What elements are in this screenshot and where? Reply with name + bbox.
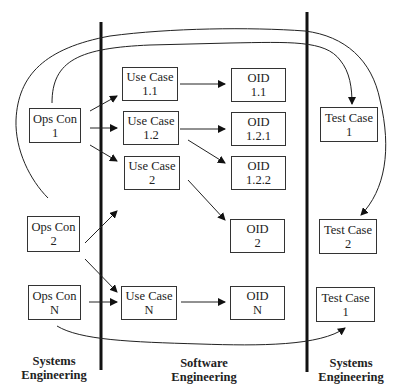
node-id: 1.2.1 (246, 129, 271, 143)
lane-label-software: Software Engineering (154, 356, 254, 384)
arrow-opscon1-uc11 (90, 96, 117, 111)
node-id: 1.1 (142, 84, 158, 98)
node-oid-n[interactable]: OID N (230, 286, 285, 320)
arrow-opscon1-uc2 (90, 145, 117, 161)
node-label: Ops Con (32, 289, 76, 303)
node-id: 2 (50, 234, 56, 248)
node-label: Use Case (128, 114, 175, 128)
diagram-connectors (0, 0, 409, 392)
node-id: 2 (149, 173, 155, 187)
node-test-case-2[interactable]: Test Case 2 (319, 219, 377, 254)
node-label: Use Case (126, 289, 173, 303)
node-use-case-1-2[interactable]: Use Case 1.2 (123, 111, 179, 145)
node-label: Use Case (127, 70, 174, 84)
node-label: Ops Con (31, 220, 75, 234)
node-ops-con-1[interactable]: Ops Con 1 (29, 108, 81, 143)
node-ops-con-2[interactable]: Ops Con 2 (27, 216, 80, 252)
node-id: 2 (345, 237, 351, 251)
lane-label-systems-left: Systems Engineering (4, 354, 104, 382)
lane-label-systems-right: Systems Engineering (301, 356, 401, 384)
node-oid-1-2-1[interactable]: OID 1.2.1 (231, 112, 286, 146)
arrow-uc12-oid122 (188, 140, 225, 163)
arrow-uc2-oid2 (188, 180, 225, 220)
node-oid-1-2-2[interactable]: OID 1.2.2 (231, 156, 286, 190)
node-label: OID (247, 71, 269, 85)
node-oid-1-1[interactable]: OID 1.1 (231, 68, 286, 102)
node-label: Test Case (324, 223, 372, 237)
node-label: OID (247, 159, 269, 173)
node-id: 1 (346, 125, 352, 139)
node-label: Use Case (129, 159, 176, 173)
node-use-case-n[interactable]: Use Case N (121, 286, 177, 320)
node-oid-2[interactable]: OID 2 (230, 219, 285, 253)
node-use-case-1-1[interactable]: Use Case 1.1 (122, 67, 178, 101)
node-label: Test Case (325, 111, 373, 125)
node-ops-con-n[interactable]: Ops Con N (28, 285, 81, 320)
node-id: 1.1 (251, 85, 267, 99)
node-label: OID (246, 289, 268, 303)
node-label: Test Case (321, 291, 369, 305)
node-id: 1 (342, 305, 348, 319)
node-label: OID (246, 222, 268, 236)
node-id: 2 (254, 236, 260, 250)
node-id: N (253, 303, 262, 317)
node-id: N (144, 303, 153, 317)
node-id: 1 (52, 126, 58, 140)
node-test-case-1-top[interactable]: Test Case 1 (320, 107, 378, 142)
node-test-case-1-bottom[interactable]: Test Case 1 (316, 287, 375, 322)
node-id: N (50, 303, 59, 317)
node-id: 1.2 (143, 128, 159, 142)
node-id: 1.2.2 (246, 173, 271, 187)
node-label: Ops Con (33, 112, 77, 126)
node-use-case-2[interactable]: Use Case 2 (124, 156, 180, 190)
node-label: OID (247, 115, 269, 129)
